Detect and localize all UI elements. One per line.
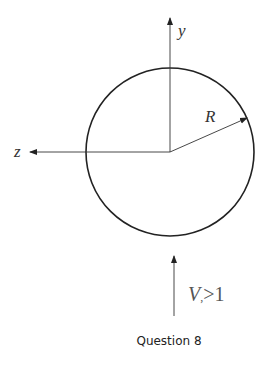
diagram-canvas: y z R V,>1 <box>0 0 258 368</box>
y-axis-label: y <box>176 21 186 40</box>
z-axis-label: z <box>13 142 21 161</box>
velocity-label: V,>1 <box>188 283 225 305</box>
velocity-cond: >1 <box>203 283 224 305</box>
radius-label: R <box>204 107 216 126</box>
figure-caption: Question 8 <box>0 334 258 348</box>
